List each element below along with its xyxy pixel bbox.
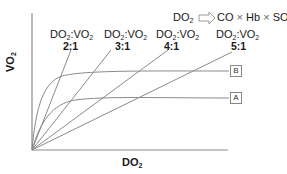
ratio-value-3-1: 3:1 (115, 41, 130, 52)
dox-vox-diagram: DO2 CO × Hb × SO2 DO2:VO2 2:1 DO2:VO2 3:… (0, 0, 287, 174)
diagram-graphics (0, 0, 287, 174)
ratio-value-5-1: 5:1 (231, 41, 246, 52)
curve-b (32, 71, 229, 150)
curve-a (32, 98, 229, 151)
curve-label-a: A (230, 92, 242, 104)
ratio-line-5-1 (32, 52, 232, 150)
formula-lhs-sub: 2 (190, 17, 194, 24)
delivery-formula-rhs: CO × Hb × SO2 (217, 12, 287, 24)
formula-times-1: × (237, 11, 243, 23)
formula-co: CO (217, 11, 234, 23)
formula-lhs: DO (173, 11, 190, 23)
y-axis-label: VO2 (5, 52, 17, 72)
x-axis-label: DO2 (122, 157, 142, 169)
ratio-line-2-1 (32, 50, 71, 150)
ratio-value-4-1: 4:1 (164, 41, 179, 52)
curve-label-b: B (230, 65, 242, 77)
arrow-icon (199, 12, 215, 24)
ratio-value-2-1: 2:1 (63, 41, 78, 52)
formula-so: SO (273, 11, 287, 23)
ratio-line-3-1 (32, 50, 111, 150)
formula-hb: Hb (246, 11, 260, 23)
delivery-formula-lhs: DO2 (173, 12, 193, 24)
formula-times-2: × (263, 11, 269, 23)
ratio-line-4-1 (32, 50, 168, 150)
